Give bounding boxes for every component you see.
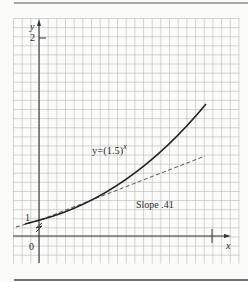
y-tick-label-1: 1	[25, 212, 30, 223]
y-tick-label-2: 2	[30, 32, 35, 43]
origin-label: 0	[29, 241, 34, 252]
y-axis-label: y	[29, 21, 35, 32]
curve-label-exponent: x	[122, 142, 127, 151]
exponential-chart: y 2 1 0 x y=(1.5)x Slope .41	[0, 0, 248, 282]
y-axis-arrow-icon	[37, 19, 41, 26]
slope-label: Slope .41	[136, 199, 174, 210]
curve-label-base: y=(1.5)	[92, 145, 124, 157]
x-axis-label: x	[225, 240, 231, 251]
curve-label: y=(1.5)x	[92, 142, 127, 157]
grid	[14, 19, 240, 264]
